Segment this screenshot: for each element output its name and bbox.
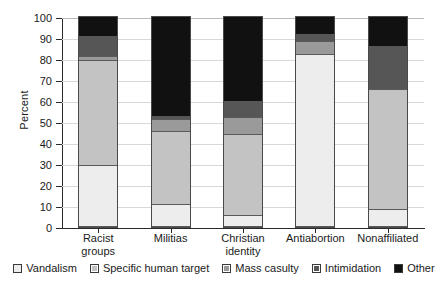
legend-item: Vandalism — [13, 262, 77, 274]
legend-label: Vandalism — [26, 262, 77, 274]
x-axis-label-line: identity — [195, 245, 291, 258]
legend-item: Intimidation — [312, 262, 381, 274]
bar-segment — [79, 17, 117, 36]
y-axis-tick — [56, 123, 62, 124]
y-axis-tick — [56, 60, 62, 61]
bar-segment — [224, 17, 262, 101]
bar-segment — [296, 17, 334, 34]
bar-segment — [79, 61, 117, 166]
plot-area — [62, 18, 424, 228]
y-axis-tick-label: 90 — [18, 34, 52, 44]
bar-segment — [79, 166, 117, 227]
y-axis-tick — [56, 186, 62, 187]
stacked-bar-chart: Percent 1009080706050403020100 Racistgro… — [0, 0, 448, 290]
bar-segment — [152, 17, 190, 116]
bar-segment — [79, 36, 117, 57]
y-axis-tick-label: 60 — [18, 97, 52, 107]
y-axis-tick — [56, 81, 62, 82]
bar-racist-groups — [78, 16, 118, 228]
legend-swatch-icon — [90, 264, 99, 273]
legend-item: Mass casulty — [222, 262, 299, 274]
legend-label: Mass casulty — [235, 262, 299, 274]
bar-segment — [224, 101, 262, 118]
bar-segment — [224, 135, 262, 217]
y-axis-tick — [56, 102, 62, 103]
bar-segment — [369, 90, 407, 210]
legend-item: Specific human target — [90, 262, 209, 274]
y-axis-tick-label: 80 — [18, 55, 52, 65]
y-axis-tick-label: 10 — [18, 202, 52, 212]
y-axis-tick — [56, 228, 62, 229]
y-axis-tick — [56, 18, 62, 19]
legend-label: Intimidation — [325, 262, 381, 274]
legend-label: Specific human target — [103, 262, 209, 274]
x-axis-label-line: Nonaffiliated — [340, 232, 436, 245]
bar-segment — [369, 17, 407, 46]
bar-militias — [151, 16, 191, 228]
bar-segment — [152, 120, 190, 133]
y-axis-tick-label: 40 — [18, 139, 52, 149]
bar-segment — [152, 132, 190, 204]
bar-segment — [224, 216, 262, 227]
bar-segment — [369, 46, 407, 90]
bar-segment — [369, 210, 407, 227]
bar-segment — [296, 34, 334, 42]
y-axis-tick-label: 30 — [18, 160, 52, 170]
legend-swatch-icon — [222, 264, 231, 273]
bar-christian-identity — [223, 16, 263, 228]
legend-item: Other — [394, 262, 435, 274]
chart-legend: VandalismSpecific human targetMass casul… — [0, 262, 448, 274]
y-axis-tick-label: 0 — [18, 223, 52, 233]
bar-nonaffiliated — [368, 16, 408, 228]
y-axis-tick-label: 70 — [18, 76, 52, 86]
y-axis-tick — [56, 144, 62, 145]
bar-segment — [152, 205, 190, 227]
legend-swatch-icon — [312, 264, 321, 273]
x-axis-label: Nonaffiliated — [340, 232, 436, 245]
y-axis-tick — [56, 165, 62, 166]
y-axis-tick-label: 50 — [18, 118, 52, 128]
legend-label: Other — [407, 262, 435, 274]
bar-segment — [296, 42, 334, 55]
bar-segment — [296, 55, 334, 227]
bar-antiabortion — [295, 16, 335, 228]
y-axis-tick — [56, 39, 62, 40]
legend-swatch-icon — [13, 264, 22, 273]
y-axis-tick — [56, 207, 62, 208]
y-axis-tick-label: 20 — [18, 181, 52, 191]
x-axis-label-line: groups — [50, 245, 146, 258]
y-axis-tick-label: 100 — [18, 13, 52, 23]
bar-segment — [224, 118, 262, 135]
legend-swatch-icon — [394, 264, 403, 273]
